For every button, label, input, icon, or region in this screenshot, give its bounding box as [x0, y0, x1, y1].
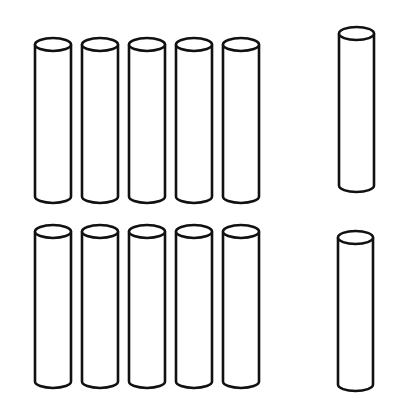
row-1-rod-2	[82, 38, 118, 203]
rods-diagram	[0, 0, 405, 406]
row-2-rod-5	[223, 225, 259, 388]
row-1-rod-3	[129, 38, 165, 203]
row-1-rod-4	[176, 38, 212, 203]
row-2-rod-2	[82, 225, 118, 388]
row-2-single-rod	[338, 231, 373, 391]
row-1-single-rod	[339, 27, 374, 192]
row-1-rod-5	[223, 38, 259, 203]
row-2-rod-4	[176, 225, 212, 388]
row-2-rod-3	[129, 225, 165, 388]
row-1-rod-1	[35, 38, 71, 203]
row-2-rod-1	[35, 225, 71, 388]
